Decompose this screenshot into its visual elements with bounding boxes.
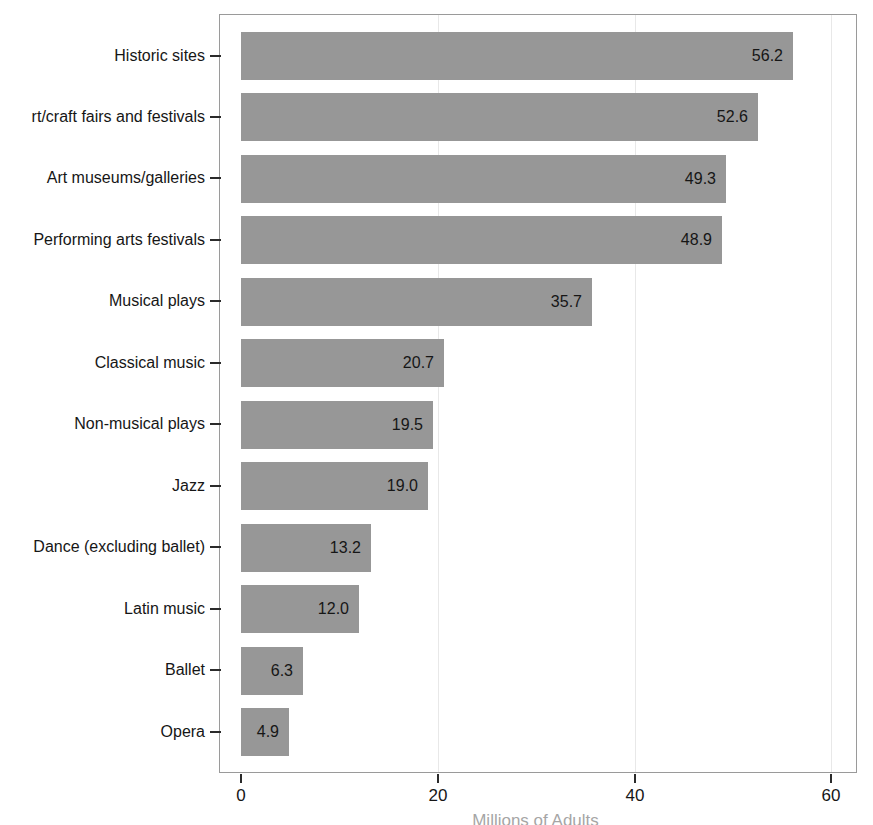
bar-chart: Historic sites rt/craft fairs and festiv… — [0, 0, 873, 825]
x-tick-mark-40 — [634, 774, 636, 783]
x-tick-mark-60 — [830, 774, 832, 783]
x-tick-label-60: 60 — [811, 786, 851, 806]
x-axis: 0 20 40 60 Millions of Adults — [0, 0, 873, 825]
x-tick-label-40: 40 — [615, 786, 655, 806]
x-axis-title: Millions of Adults — [241, 811, 830, 825]
x-tick-label-0: 0 — [221, 786, 261, 806]
x-tick-mark-20 — [437, 774, 439, 783]
x-tick-label-20: 20 — [418, 786, 458, 806]
x-tick-mark-0 — [240, 774, 242, 783]
